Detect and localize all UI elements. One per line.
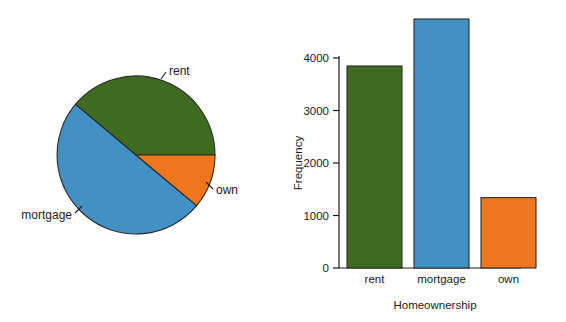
bar-chart-svg: 4000 3000 2000 1000 0 Frequency rent mor…	[283, 0, 566, 322]
y-tick-label-2000: 2000	[303, 157, 329, 169]
pie-leader-rent	[161, 72, 166, 79]
y-axis-title: Frequency	[292, 136, 304, 191]
bar-own[interactable]	[481, 198, 536, 268]
pie-chart-panel: rent own mortgage	[0, 0, 283, 322]
pie-chart-svg: rent own mortgage	[0, 0, 283, 322]
pie-label-rent: rent	[169, 64, 190, 78]
figure-canvas: rent own mortgage 4000 3000 2000 1000 0 …	[0, 0, 566, 322]
x-axis-title: Homeownership	[393, 299, 476, 311]
y-tick-label-4000: 4000	[303, 52, 329, 64]
x-tick-label-mortgage: mortgage	[417, 273, 466, 285]
y-tick-label-0: 0	[323, 262, 329, 274]
bar-rent[interactable]	[347, 66, 402, 268]
pie-label-mortgage: mortgage	[21, 208, 72, 222]
x-tick-label-own: own	[498, 273, 519, 285]
bar-mortgage[interactable]	[414, 19, 469, 268]
y-tick-label-3000: 3000	[303, 105, 329, 117]
pie-label-own: own	[216, 183, 238, 197]
x-tick-label-rent: rent	[365, 273, 386, 285]
y-tick-label-1000: 1000	[303, 210, 329, 222]
bar-chart-panel: 4000 3000 2000 1000 0 Frequency rent mor…	[283, 0, 566, 322]
